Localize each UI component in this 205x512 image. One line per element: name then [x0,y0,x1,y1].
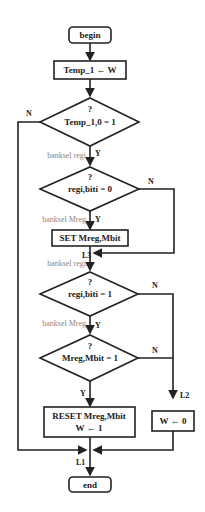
end-label: end [83,480,97,490]
assign-w0-label: W ← 0 [160,416,187,426]
flowchart: begin Temp_1 ← W ? Temp_1,0 = 1 N Y bank… [0,0,205,512]
dec3-no: N [152,281,158,290]
dec3-q: ? [88,277,93,287]
reset-label-2: W ← 1 [76,423,103,433]
begin-label: begin [79,30,100,40]
dec4-no: N [152,346,158,355]
label-l2: L2 [180,391,189,400]
banksel-3: banksel regi [47,259,87,268]
dec4-q: ? [88,341,93,351]
label-l1: L1 [76,458,85,467]
banksel-1: banksel regi [47,151,87,160]
dec2-yes: Y [95,215,101,224]
banksel-4: banksel Mreg [42,319,86,328]
dec1-q: ? [88,104,93,114]
reset-label-1: RESET Mreg,Mbit [52,411,126,421]
dec3-cond: regi,biti = 1 [68,289,113,299]
dec3-yes: Y [95,321,101,330]
set-label: SET Mreg,Mbit [59,233,120,243]
assign-temp-label: Temp_1 ← W [63,65,116,75]
dec1-yes: Y [95,149,101,158]
dec4-yes: Y [80,389,86,398]
dec1-cond: Temp_1,0 = 1 [64,117,116,127]
banksel-2: banksel Mreg [42,215,86,224]
dec2-cond: regi,biti = 0 [68,184,113,194]
dec2-q: ? [88,172,93,182]
dec1-no: N [26,109,32,118]
dec4-cond: Mreg,Mbit = 1 [62,353,119,363]
dec2-no: N [148,177,154,186]
